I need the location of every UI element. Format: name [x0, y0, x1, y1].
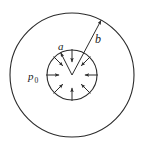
pressure-arrow-sw [54, 84, 63, 93]
radius-line-b [72, 20, 101, 75]
pressure-arrow-nw [54, 57, 63, 66]
label-pressure-p: p [27, 70, 34, 82]
label-inner-radius-a: a [58, 40, 64, 52]
radius-line-a [61, 53, 72, 75]
label-pressure-subscript: 0 [35, 76, 39, 85]
label-outer-radius-b: b [95, 32, 101, 46]
pressure-arrow-ne [81, 57, 90, 66]
cylinder-cross-section-diagram: b a p 0 [0, 0, 143, 149]
figure-container: b a p 0 [0, 0, 143, 149]
pressure-arrow-se [81, 84, 90, 93]
